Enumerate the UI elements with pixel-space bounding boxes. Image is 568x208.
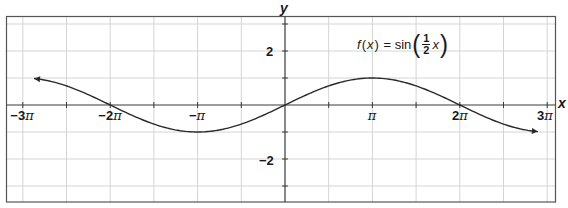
x-tick-label-neg3pi: −3π [10,109,33,122]
x-tick-label-3pi: 3π [537,109,553,122]
x-tick-label-pi: π [368,109,377,122]
formula-paren: ) [374,37,378,52]
axes [7,17,556,203]
formula-fraction: 1 2 [422,33,430,56]
x-tick-label-negpi: −π [189,109,205,122]
formula-paren: ( [362,37,366,52]
y-tick-label-neg2: −2 [259,154,274,167]
arrow-right-icon [532,128,538,134]
y-axis-label: y [280,1,288,15]
y-tick-label-2: 2 [266,45,273,58]
formula-arg-x: x [432,37,439,52]
formula-x: x [367,37,374,52]
x-tick-label-neg2pi: −2π [98,109,121,122]
formula-big-paren-close: ) [440,31,448,57]
sine-graph [0,0,568,208]
fraction-denominator: 2 [423,45,429,56]
function-label: f(x) = sin ( 1 2 x ) [357,32,448,56]
plot-frame [7,17,556,203]
formula-f: f [357,37,361,52]
x-axis-label: x [558,96,566,110]
fraction-numerator: 1 [422,33,430,45]
grid-lines [7,17,556,203]
formula-big-paren-open: ( [412,31,420,57]
x-tick-label-2pi: 2π [452,109,468,122]
formula-equals-sin: = sin [380,37,411,52]
